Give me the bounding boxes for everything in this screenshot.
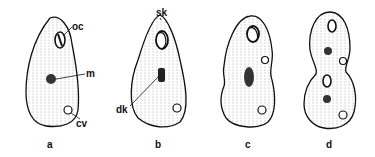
label-cv: cv [76, 118, 88, 129]
oral-cavity-icon [323, 75, 331, 87]
label-m: m [86, 68, 95, 79]
caption-b: b [155, 139, 161, 150]
contractile-vacuole-icon [258, 106, 266, 114]
oral-cavity-icon [328, 20, 336, 32]
contractile-vacuole-icon [262, 57, 269, 64]
dividing-macronucleus-icon [244, 67, 254, 87]
diagram-canvas: oc m cv a sk dk b c d [0, 0, 375, 157]
macronucleus-icon [323, 95, 331, 103]
label-oc: oc [72, 21, 84, 32]
macronucleus-icon [324, 47, 332, 55]
macronucleus-icon [46, 74, 56, 84]
cell-d: d [304, 12, 356, 150]
contractile-vacuole-icon [340, 58, 347, 65]
cell-a: oc m cv a [26, 17, 95, 150]
cell-c: c [221, 16, 274, 150]
dividing-kinetosome-icon [158, 68, 165, 82]
caption-d: d [326, 139, 332, 150]
contractile-vacuole-icon [64, 106, 72, 114]
caption-c: c [245, 139, 251, 150]
cell-b: sk dk b [116, 7, 186, 150]
contractile-vacuole-icon [173, 104, 181, 112]
caption-a: a [47, 139, 53, 150]
label-dk: dk [116, 104, 128, 115]
label-sk: sk [156, 7, 168, 18]
contractile-vacuole-icon [339, 111, 347, 119]
